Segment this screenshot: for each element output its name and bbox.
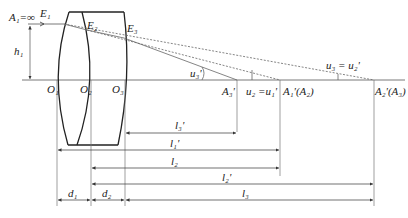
label-O3: O₃ <box>112 83 124 95</box>
dim-l1p: l₁' <box>170 137 180 149</box>
angle-u3: u₃ = u₂' <box>326 59 361 71</box>
dim-l2: l₂ <box>171 155 178 167</box>
rays <box>64 24 374 80</box>
label-E3: E₃ <box>126 22 138 34</box>
lens-diagram: A₁=∞ E₁ E₂ E₃ h₁ O₁ O₂ O₃ A₃' A₁'(A₂) A₂… <box>0 0 408 218</box>
label-E2: E₂ <box>86 19 98 31</box>
label-A1pA2: A₁'(A₂) <box>282 85 314 98</box>
lens-group <box>58 12 127 145</box>
dim-l2p: l₂' <box>222 171 232 183</box>
label-h1: h₁ <box>14 45 24 57</box>
angle-u2: u₂ =u₁' <box>246 85 278 97</box>
label-A2pA3: A₂'(A₃) <box>374 85 406 98</box>
label-A3p: A₃' <box>221 85 236 97</box>
label-E1: E₁ <box>39 7 51 19</box>
dim-d2: d₂ <box>102 187 112 199</box>
label-A1: A₁=∞ <box>8 11 35 23</box>
dim-l3p: l₃' <box>175 119 185 131</box>
dim-l3: l₃ <box>242 187 249 199</box>
dim-d1: d₁ <box>68 187 78 199</box>
label-O2: O₂ <box>80 83 92 95</box>
label-O1: O₁ <box>47 83 59 95</box>
angle-u3p: u₃' <box>190 67 202 79</box>
